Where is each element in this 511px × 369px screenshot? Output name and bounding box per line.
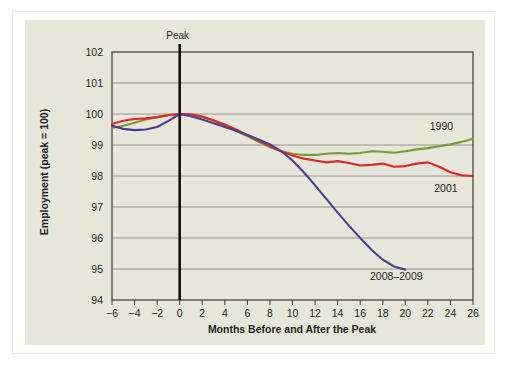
y-tick-label-96: 96 [91,232,103,244]
x-tick-label-14: 14 [332,307,344,319]
x-tick-label-22: 22 [422,307,434,319]
x-tick-label-18: 18 [377,307,389,319]
x-tick-label-20: 20 [399,307,411,319]
chart-screenshot: 949596979899100101102 −6−4−2024681012141… [0,0,511,369]
y-tick-label-99: 99 [91,139,103,151]
series-label-2001: 2001 [434,182,458,194]
x-tick-label-2: 2 [199,307,205,319]
x-tick-label-10: 10 [287,307,299,319]
series-label-1990: 1990 [430,120,454,132]
x-axis-tick-labels: −6−4−202468101214161820222426 [106,307,479,319]
y-tick-label-97: 97 [91,201,103,213]
x-axis-ticks [112,300,473,305]
y-tick-label-94: 94 [91,294,103,306]
x-tick-label-6: 6 [244,307,250,319]
series-end-labels: 199020012008–2009 [370,120,458,282]
x-tick-label-8: 8 [267,307,273,319]
y-axis-title: Employment (peak = 100) [38,109,50,235]
y-tick-label-100: 100 [85,108,103,120]
data-series-lines [112,114,473,270]
y-tick-label-95: 95 [91,263,103,275]
x-tick-label--6: −6 [106,307,118,319]
x-axis-title: Months Before and After the Peak [208,323,376,335]
x-tick-label-16: 16 [354,307,366,319]
x-tick-label--2: −2 [151,307,163,319]
x-tick-label-4: 4 [222,307,228,319]
y-tick-label-101: 101 [85,77,103,89]
gridlines [112,83,473,269]
peak-marker-group: Peak [166,30,190,300]
series-label-2008-2009: 2008–2009 [370,270,423,282]
y-tick-label-98: 98 [91,170,103,182]
series-line-2008-2009 [112,114,405,270]
y-tick-label-102: 102 [85,46,103,58]
x-tick-label-12: 12 [309,307,321,319]
x-tick-label-0: 0 [177,307,183,319]
peak-label: Peak [166,30,190,41]
x-tick-label-24: 24 [445,307,457,319]
employment-line-chart: 949596979899100101102 −6−4−2024681012141… [0,0,511,369]
y-axis-tick-labels: 949596979899100101102 [85,46,103,306]
x-tick-label--4: −4 [129,307,141,319]
series-line-1990 [112,114,473,155]
x-tick-label-26: 26 [467,307,479,319]
